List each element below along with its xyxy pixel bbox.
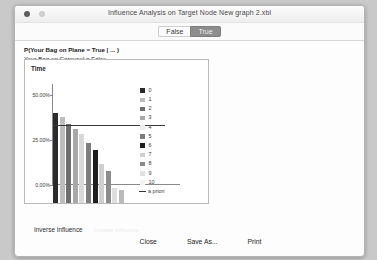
y-tick-label: 25.00% [26,137,50,143]
legend-label: 7 [149,152,152,157]
legend-swatch [140,88,145,93]
y-tick-label: 0.00% [26,182,50,188]
legend-item: 7 [140,150,188,159]
influence-analysis-dialog: Influence Analysis on Target Node New gr… [14,5,365,257]
legend-label: a priori [148,189,164,194]
window-title: Influence Analysis on Target Node New gr… [15,9,364,16]
legend-label: 1 [149,97,152,102]
legend-swatch [140,98,145,103]
legend-swatch [140,171,145,176]
legend-label: 8 [149,161,152,166]
save-as-button[interactable]: Save As... [183,237,222,246]
close-button[interactable]: Close [136,237,161,246]
legend-label: 4 [149,125,152,130]
legend-line-swatch [139,191,146,192]
legend-label: 10 [149,180,155,185]
bar-series [53,84,131,203]
influence-chart-panel: Time 0.00%25.00%50.00% 012345678910a pri… [24,59,209,204]
legend-label: 2 [149,106,152,111]
legend-swatch [140,180,145,185]
bar [79,134,84,203]
legend-item: 5 [140,132,188,141]
legend-item: 2 [140,104,188,113]
bar [112,188,117,203]
segmented-control: False True [158,26,220,37]
legend-item: 4 [140,123,188,132]
chart-title: Time [31,65,46,72]
window-titlebar[interactable]: Influence Analysis on Target Node New gr… [15,6,364,23]
chart-legend: 012345678910a priori [140,86,188,196]
legend-item: 8 [140,160,188,169]
legend-swatch [140,153,145,158]
probability-expression: P(Your Bag on Plane = True | ... ) [24,45,364,54]
legend-swatch [140,125,145,130]
legend-label: 0 [149,88,152,93]
legend-item-apriori: a priori [140,187,188,196]
bar [73,129,78,203]
bar [60,117,65,203]
legend-label: 5 [149,134,152,139]
bar [106,171,111,203]
legend-swatch [140,116,145,121]
legend-swatch [140,143,145,148]
legend-label: 6 [149,143,152,148]
print-button[interactable]: Print [244,237,266,246]
tab-true[interactable]: True [190,26,220,37]
inverse-influence-label: Inverse Influence [34,226,83,233]
legend-swatch [140,162,145,167]
legend-swatch [140,134,145,139]
bar [86,143,91,203]
inverse-influence-row: Inverse Influence Inverse Influence [34,226,139,233]
bar [119,190,124,203]
dialog-footer: Close Save As... Print [15,237,364,246]
bar [66,124,71,203]
legend-item: 10 [140,178,188,187]
legend-label: 9 [149,171,152,176]
legend-item: 1 [140,95,188,104]
inverse-influence-ghost-control[interactable]: Inverse Influence [94,227,140,233]
y-tick-label: 50.00% [26,92,50,98]
legend-swatch [140,107,145,112]
bar [93,150,98,203]
legend-item: 9 [140,169,188,178]
legend-item: 6 [140,141,188,150]
state-tabbar: False True [15,23,364,41]
legend-item: 3 [140,114,188,123]
legend-item: 0 [140,86,188,95]
legend-label: 3 [149,115,152,120]
bar [99,164,104,203]
tab-false[interactable]: False [158,26,190,37]
